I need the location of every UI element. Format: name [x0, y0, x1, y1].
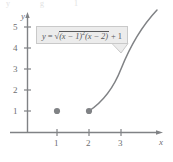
x-tick-label-1: 1	[54, 139, 59, 148]
math-figure: y g 1 1 2 3 4 5 1 2 3 y x	[0, 0, 173, 162]
y-tick-label-5: 5	[13, 23, 18, 32]
data-point-2-1	[86, 108, 92, 114]
y-tick-label-2: 2	[13, 86, 18, 95]
equation-callout: y = √(x − 1)2(x − 2) + 1	[36, 26, 128, 44]
x-tick-label-3: 3	[118, 139, 123, 148]
y-axis-label: y	[21, 12, 25, 21]
equation-text: y = √(x − 1)2(x − 2) + 1	[42, 30, 122, 41]
equation-tail: + 1	[111, 31, 122, 41]
equation-equals: =	[48, 31, 53, 41]
radicand-second-factor: (x − 2)	[85, 31, 108, 41]
y-tick-label-4: 4	[13, 44, 18, 53]
x-axis-label: x	[159, 138, 163, 147]
equation-lhs: y	[42, 31, 46, 41]
y-tick-label-1: 1	[13, 107, 18, 116]
y-tick-label-3: 3	[13, 65, 18, 74]
radical-group: √(x − 1)2(x − 2)	[55, 30, 109, 41]
radicand-first-factor: (x − 1)	[59, 31, 82, 41]
x-tick-label-2: 2	[86, 139, 91, 148]
radicand-group: (x − 1)2(x − 2)	[59, 31, 109, 41]
data-point-1-1	[54, 108, 60, 114]
y-axis-arrow	[25, 12, 29, 18]
x-axis-arrow	[156, 130, 163, 135]
